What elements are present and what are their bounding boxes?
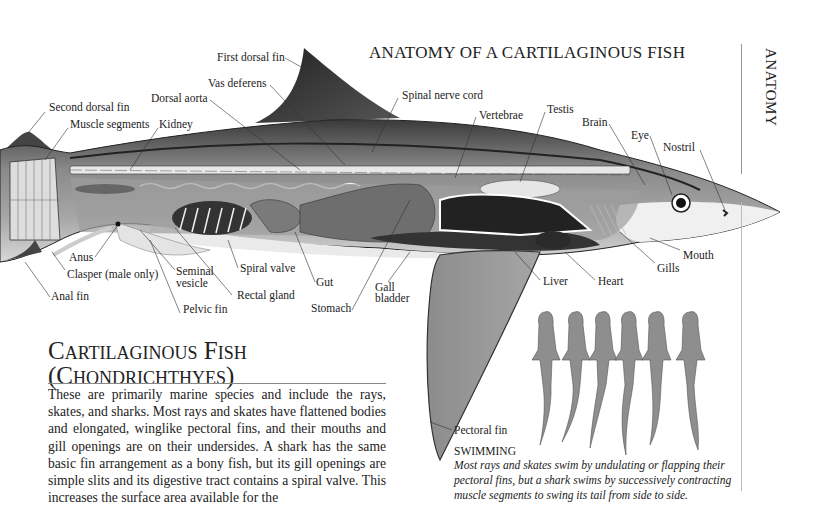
label-gut: Gut (316, 276, 333, 289)
section-title-line1: Cartilaginous Fish (48, 338, 247, 363)
label-stomach: Stomach (311, 302, 351, 315)
label-second-dorsal-fin: Second dorsal fin (49, 101, 129, 114)
label-rectal-gland: Rectal gland (237, 289, 295, 302)
label-spiral-valve: Spiral valve (240, 262, 295, 275)
muscle-segments-block (10, 158, 60, 240)
label-pectoral-fin: Pectoral fin (454, 424, 507, 437)
swimming-sharks-sequence (532, 312, 705, 455)
label-brain: Brain (582, 116, 608, 129)
label-kidney: Kidney (159, 118, 193, 131)
swimming-heading: SWIMMING (454, 445, 516, 457)
section-tab-label: ANATOMY (762, 48, 779, 126)
anus (116, 222, 121, 227)
label-testis: Testis (547, 103, 574, 116)
label-eye: Eye (631, 129, 649, 142)
section-tab: ANATOMY (748, 44, 778, 154)
page-title: ANATOMY OF A CARTILAGINOUS FISH (369, 43, 685, 63)
label-clasper: Clasper (male only) (67, 268, 158, 281)
label-anal-fin: Anal fin (51, 290, 89, 303)
side-divider (741, 44, 742, 174)
label-seminal-vesicle: Seminal vesicle (176, 265, 214, 289)
label-liver: Liver (543, 275, 568, 288)
label-anus: Anus (69, 251, 93, 264)
label-spinal-nerve-cord: Spinal nerve cord (402, 89, 483, 102)
section-body: These are primarily marine species and i… (48, 386, 386, 506)
label-vas-deferens: Vas deferens (208, 77, 266, 90)
label-first-dorsal-fin: First dorsal fin (217, 51, 285, 64)
section-title-line2: (Chondrichthyes) (48, 363, 247, 388)
section-title: Cartilaginous Fish (Chondrichthyes) (48, 338, 247, 388)
label-dorsal-aorta: Dorsal aorta (151, 92, 208, 105)
label-gills: Gills (657, 262, 679, 275)
label-heart: Heart (598, 275, 624, 288)
swimming-caption: Most rays and skates swim by undulating … (454, 458, 744, 503)
label-muscle-segments: Muscle segments (70, 118, 150, 131)
label-nostril: Nostril (663, 141, 695, 154)
label-pelvic-fin: Pelvic fin (183, 303, 227, 316)
kidney (75, 184, 135, 194)
label-vertebrae: Vertebrae (479, 109, 523, 122)
heart (535, 231, 571, 249)
side-divider-lower (741, 202, 742, 491)
vertebrae (70, 166, 630, 174)
section-rule (48, 383, 386, 384)
label-mouth: Mouth (683, 249, 714, 262)
label-gall-bladder: Gall bladder (375, 282, 409, 304)
